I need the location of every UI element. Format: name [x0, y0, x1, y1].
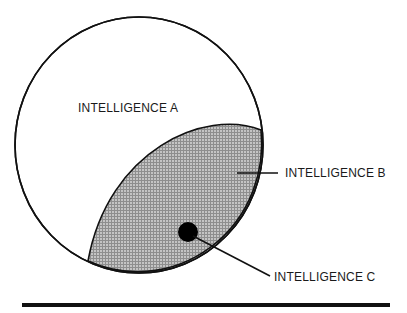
intelligence-diagram: INTELLIGENCE A INTELLIGENCE B INTELLIGEN…: [0, 0, 407, 313]
intelligence-b-label: INTELLIGENCE B: [285, 166, 386, 180]
bottom-rule-divider: [22, 303, 390, 307]
intelligence-c-dot: [178, 222, 198, 242]
intelligence-a-label: INTELLIGENCE A: [78, 101, 178, 115]
intelligence-c-leader-line: [193, 236, 270, 276]
intelligence-c-label: INTELLIGENCE C: [274, 270, 376, 284]
